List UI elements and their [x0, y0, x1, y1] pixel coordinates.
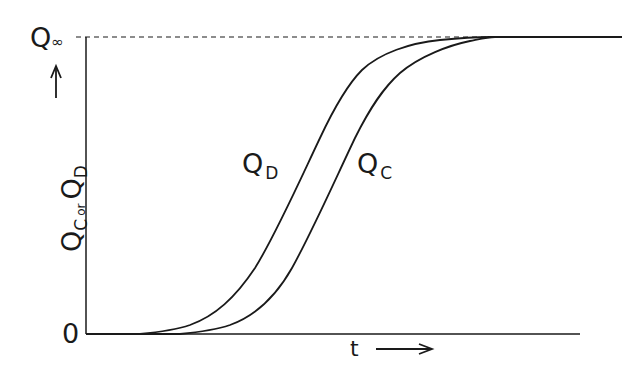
q-d-letter: Q	[242, 148, 263, 179]
y-top-label: Q∞	[30, 22, 64, 53]
q-letter: Q	[30, 22, 51, 53]
y-zero-label: 0	[62, 318, 79, 349]
q-c-label: QC	[357, 148, 392, 179]
q-c-subscript: C	[380, 163, 392, 183]
x-axis-label: t	[350, 336, 359, 361]
curve-q-c	[86, 37, 495, 334]
y-axis-label: QCorQD	[56, 165, 87, 252]
y-label-q1: Q	[56, 231, 87, 252]
infinity-subscript: ∞	[51, 33, 64, 51]
y-label-q2: Q	[56, 178, 87, 199]
cumulative-curves-chart	[0, 0, 639, 379]
q-d-subscript: D	[265, 163, 278, 183]
curve-q-d	[86, 37, 490, 334]
y-label-or: or	[74, 204, 88, 216]
y-label-sub-c: C	[71, 219, 91, 231]
q-c-letter: Q	[357, 148, 378, 179]
right-arrow-icon	[376, 344, 432, 354]
up-arrow-icon	[51, 66, 61, 98]
q-d-label: QD	[242, 148, 278, 179]
y-label-sub-d: D	[71, 165, 91, 178]
